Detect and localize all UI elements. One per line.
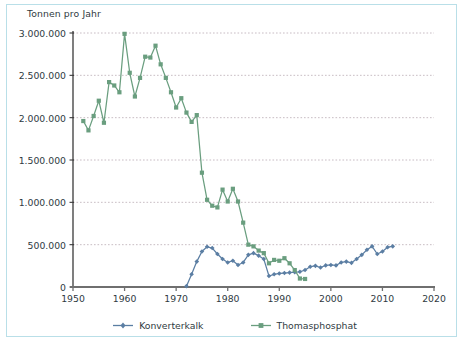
data-point-thomasphosphat — [236, 199, 240, 203]
data-point-thomasphosphat — [293, 268, 297, 272]
data-point-konverterkalk — [323, 263, 328, 268]
data-point-thomasphosphat — [122, 32, 126, 36]
data-point-thomasphosphat — [179, 96, 183, 100]
data-point-thomasphosphat — [200, 171, 204, 175]
data-point-konverterkalk — [329, 263, 334, 268]
data-point-thomasphosphat — [117, 90, 121, 94]
data-point-thomasphosphat — [138, 76, 142, 80]
data-point-thomasphosphat — [210, 204, 214, 208]
legend-item-thomasphosphat[interactable]: Thomasphosphat — [250, 320, 357, 331]
data-point-thomasphosphat — [205, 198, 209, 202]
data-point-thomasphosphat — [159, 62, 163, 66]
data-point-konverterkalk — [318, 265, 323, 270]
data-point-konverterkalk — [189, 272, 194, 277]
data-point-thomasphosphat — [112, 83, 116, 87]
chart-legend: KonverterkalkThomasphosphat — [0, 320, 469, 331]
chart-plot-area — [0, 0, 469, 349]
data-point-konverterkalk — [282, 271, 287, 276]
data-point-thomasphosphat — [246, 243, 250, 247]
data-point-thomasphosphat — [267, 261, 271, 265]
data-point-thomasphosphat — [102, 121, 106, 125]
data-point-thomasphosphat — [262, 251, 266, 255]
data-point-konverterkalk — [277, 271, 282, 276]
chart-figure: Tonnen pro Jahr 0500.0001.000.0001.500.0… — [0, 0, 469, 349]
data-point-thomasphosphat — [226, 199, 230, 203]
data-point-thomasphosphat — [81, 119, 85, 123]
data-point-thomasphosphat — [107, 80, 111, 84]
data-point-thomasphosphat — [174, 105, 178, 109]
data-point-thomasphosphat — [282, 256, 286, 260]
data-point-konverterkalk — [344, 259, 349, 264]
data-point-konverterkalk — [287, 270, 292, 275]
data-point-thomasphosphat — [133, 94, 137, 98]
data-point-thomasphosphat — [97, 99, 101, 103]
data-point-thomasphosphat — [277, 259, 281, 263]
legend-diamond-marker-icon — [112, 320, 134, 331]
data-point-thomasphosphat — [215, 205, 219, 209]
data-point-thomasphosphat — [303, 277, 307, 281]
data-point-konverterkalk — [272, 272, 277, 277]
data-point-thomasphosphat — [195, 113, 199, 117]
data-point-thomasphosphat — [143, 55, 147, 59]
data-point-thomasphosphat — [148, 55, 152, 59]
data-point-thomasphosphat — [190, 120, 194, 124]
data-point-thomasphosphat — [231, 187, 235, 191]
legend-label: Konverterkalk — [139, 320, 203, 331]
data-point-konverterkalk — [267, 274, 272, 279]
data-point-thomasphosphat — [241, 221, 245, 225]
data-point-konverterkalk — [313, 264, 318, 269]
data-point-thomasphosphat — [257, 248, 261, 252]
data-point-konverterkalk — [194, 259, 199, 264]
series-line-thomasphosphat — [83, 34, 305, 279]
legend-square-marker-icon — [250, 320, 272, 331]
data-point-thomasphosphat — [153, 44, 157, 48]
data-point-thomasphosphat — [298, 276, 302, 280]
legend-item-konverterkalk[interactable]: Konverterkalk — [112, 320, 203, 331]
data-point-konverterkalk — [390, 244, 395, 249]
data-point-konverterkalk — [298, 269, 303, 274]
data-point-thomasphosphat — [251, 244, 255, 248]
data-point-thomasphosphat — [86, 128, 90, 132]
data-point-thomasphosphat — [128, 71, 132, 75]
legend-label: Thomasphosphat — [277, 320, 357, 331]
data-point-thomasphosphat — [288, 261, 292, 265]
data-point-thomasphosphat — [164, 76, 168, 80]
data-point-konverterkalk — [251, 251, 256, 256]
data-point-thomasphosphat — [272, 258, 276, 262]
data-point-thomasphosphat — [220, 188, 224, 192]
data-point-thomasphosphat — [169, 90, 173, 94]
data-point-thomasphosphat — [92, 114, 96, 118]
data-point-thomasphosphat — [184, 110, 188, 114]
